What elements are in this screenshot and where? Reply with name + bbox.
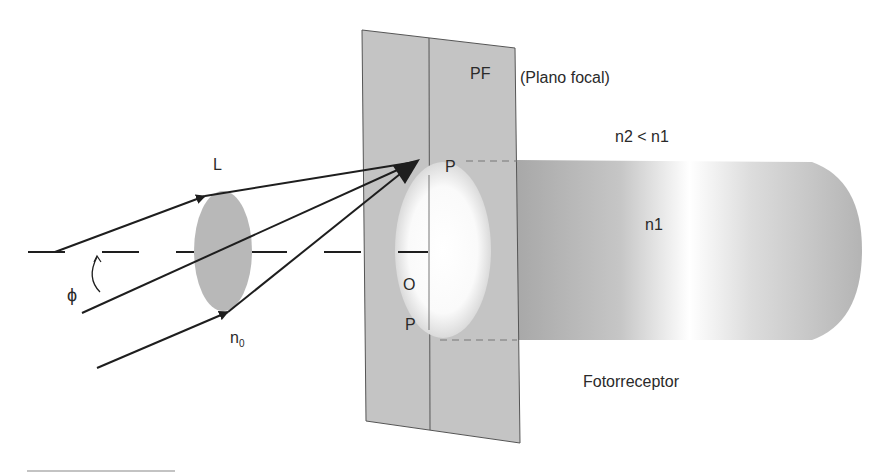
angle-phi-arc bbox=[92, 257, 100, 292]
lens bbox=[194, 191, 252, 311]
label-n0: n0 bbox=[230, 329, 245, 349]
label-fotorreceptor: Fotorreceptor bbox=[583, 373, 680, 390]
label-lens-L: L bbox=[213, 156, 222, 173]
label-pf: PF bbox=[470, 65, 491, 82]
aperture bbox=[395, 162, 491, 338]
label-n1: n1 bbox=[645, 216, 663, 233]
arc-arrow-icon bbox=[94, 256, 101, 262]
label-p-bottom: P bbox=[405, 316, 416, 333]
label-phi: ϕ bbox=[67, 285, 77, 305]
label-plano-focal: (Plano focal) bbox=[520, 69, 610, 86]
label-o: O bbox=[403, 276, 415, 293]
label-n2-lt-n1: n2 < n1 bbox=[615, 128, 669, 145]
label-p-top: P bbox=[445, 158, 456, 175]
photoreceptor-cylinder bbox=[517, 160, 862, 340]
optics-diagram: PF (Plano focal) n2 < n1 n1 L P O P ϕ n0… bbox=[0, 0, 896, 473]
